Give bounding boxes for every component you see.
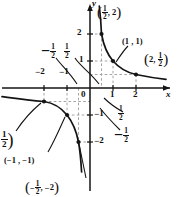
denominator: 2: [123, 135, 129, 143]
point-label-neg2-neghalf: 12): [1, 130, 14, 149]
paren-close: ): [8, 130, 14, 150]
fraction: 12: [123, 127, 129, 143]
denominator: 2: [102, 12, 108, 20]
point-label-half-2: (12, 2): [97, 5, 121, 21]
point-neg1-neg1: [65, 113, 69, 117]
xtick-value-neg2: 2: [40, 66, 45, 76]
point-label-2-half: (2, 12): [144, 52, 168, 68]
numerator: 1: [64, 43, 70, 50]
paren-close: ): [116, 4, 121, 20]
minus-sign: −: [41, 42, 50, 59]
graph-canvas: [0, 0, 183, 197]
fraction: 12: [158, 52, 164, 68]
fraction: 12: [64, 43, 70, 59]
numerator: 1: [118, 105, 124, 112]
numerator: 1: [158, 52, 164, 59]
point-1-1: [111, 59, 115, 63]
point-neg2-neghalf: [42, 99, 46, 103]
point-half-2: [99, 32, 103, 36]
ytick-label-2: 2: [77, 27, 82, 37]
xtick-label-1: 1: [110, 89, 115, 99]
denominator: 2: [118, 113, 124, 121]
leader-point-neg1: [48, 117, 65, 152]
paren-close: ): [163, 51, 168, 67]
graph-figure: x y 0 −2 −1 1 2 2 1 −1 −2 −12 12 12 −12 …: [0, 0, 183, 197]
denominator: 2: [50, 51, 56, 59]
point-label-1-1: (1 , 1): [122, 36, 143, 46]
xtick-label-neg2: −2: [35, 66, 45, 77]
numerator: 1: [50, 43, 56, 50]
ytick-label-1: 1: [79, 54, 84, 64]
callout-y-neg-half: −12: [114, 125, 129, 144]
ytick-label-neg2: −2: [94, 135, 104, 146]
callout-x-neg-half: −12: [41, 41, 56, 60]
denominator: 2: [35, 187, 41, 195]
denominator: 2: [1, 139, 8, 149]
leader-point-neg2: [16, 103, 41, 131]
point-label-neg1-neg1: (−1 , −1): [4, 155, 34, 165]
denominator: 2: [158, 59, 164, 67]
ytick-label-neg1: −1: [94, 108, 104, 119]
x-axis-label: x: [166, 89, 171, 99]
fraction: 12: [102, 5, 108, 21]
fraction: 12: [1, 130, 8, 149]
ytick-value-neg2: 2: [99, 135, 104, 145]
numerator: 1: [35, 180, 41, 187]
denominator: 2: [64, 51, 70, 59]
callout-x-pos-half: 12: [64, 41, 70, 59]
fraction: 12: [50, 43, 56, 59]
point-label-neghalf-neg2: (−12, −2): [25, 180, 59, 196]
origin-label: 0: [81, 89, 86, 99]
ytick-value-neg1: 1: [99, 108, 104, 118]
paren-close: ): [54, 179, 59, 195]
point-2-half: [134, 72, 138, 76]
numerator: 1: [123, 127, 129, 134]
xtick-label-2: 2: [133, 89, 138, 99]
numerator: 1: [102, 5, 108, 12]
point-neghalf-neg2: [76, 140, 80, 144]
leader-point-1-1: [116, 46, 128, 62]
minus-sign: −: [114, 126, 123, 143]
xtick-value-neg1: 1: [64, 66, 69, 76]
fraction: 12: [118, 105, 124, 121]
numerator: 1: [1, 130, 8, 139]
callout-y-pos-half: 12: [118, 103, 124, 121]
xtick-label-neg1: −1: [59, 66, 69, 77]
fraction: 12: [35, 180, 41, 196]
y-axis-label: y: [92, 0, 96, 8]
